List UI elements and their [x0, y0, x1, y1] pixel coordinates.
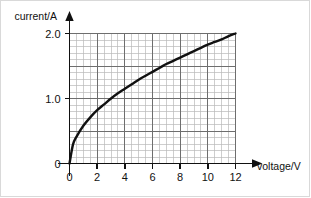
y-tick-label: 1.0 [45, 93, 60, 105]
iv-characteristic-chart: 02468101201.02.0 current/A voltage/V [0, 0, 311, 198]
x-axis-title: voltage/V [257, 160, 301, 172]
x-tick-label: 0 [66, 171, 72, 183]
x-tick-label: 8 [177, 171, 183, 183]
x-tick-label: 10 [202, 171, 214, 183]
x-tick-label: 6 [149, 171, 155, 183]
x-tick-label: 4 [122, 171, 128, 183]
y-axis-title: current/A [14, 10, 57, 22]
y-tick-label: 0 [54, 158, 60, 170]
y-tick-label: 2.0 [45, 28, 60, 40]
x-tick-label: 12 [229, 171, 241, 183]
chart-canvas: 02468101201.02.0 current/A voltage/V [0, 0, 311, 198]
x-tick-label: 2 [94, 171, 100, 183]
